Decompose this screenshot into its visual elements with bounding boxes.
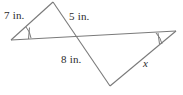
geometry-figure: 7 in. 5 in. 8 in. x xyxy=(0,0,183,95)
transversal-baseline xyxy=(11,31,176,40)
angle-tick-right-vertex xyxy=(158,33,160,44)
label-side-7: 7 in. xyxy=(4,10,25,21)
label-side-5: 5 in. xyxy=(69,11,90,22)
angle-tick-left-vertex xyxy=(29,28,30,40)
label-side-x: x xyxy=(143,58,148,69)
triangle-upper-side-7 xyxy=(11,2,53,40)
figure-canvas xyxy=(0,0,183,95)
label-side-8: 8 in. xyxy=(61,54,82,65)
